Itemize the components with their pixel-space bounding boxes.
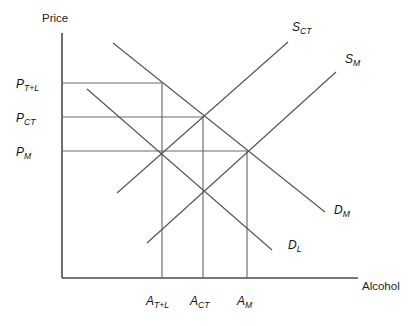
quantity-label-m-base: A <box>236 294 245 308</box>
y-axis-title: Price <box>42 12 68 24</box>
quantity-label-m-sub: M <box>245 300 253 310</box>
curve-label-s-m-base: S <box>345 52 353 66</box>
supply-curve-s-m <box>147 72 336 243</box>
quantity-label-ct-base: A <box>189 294 198 308</box>
demand-curve-d-l <box>87 89 272 250</box>
axes-group <box>62 33 358 278</box>
quantity-label-m: AM <box>236 294 253 310</box>
price-label-m: PM <box>16 145 32 161</box>
x-axis-title: Alcohol <box>362 280 400 292</box>
price-label-t-plus-l-sub: T+L <box>24 83 39 93</box>
price-label-ct-base: P <box>16 111 24 125</box>
curve-label-s-ct: SCT <box>292 20 312 36</box>
price-label-m-base: P <box>16 145 24 159</box>
curve-label-d-m-base: D <box>334 203 343 217</box>
curve-label-d-m-sub: M <box>343 209 351 219</box>
supply-demand-figure: Price Alcohol PT+L PCT PM AT+L ACT AM <box>0 0 415 326</box>
price-label-ct: PCT <box>16 111 36 127</box>
price-label-t-plus-l: PT+L <box>16 77 39 93</box>
curves-group <box>87 42 336 250</box>
quantity-guide-lines <box>162 83 247 278</box>
quantity-label-ct: ACT <box>189 294 210 310</box>
curve-label-d-l: DL <box>288 238 302 254</box>
quantity-label-t-plus-l-sub: T+L <box>154 300 169 310</box>
quantity-label-t-plus-l: AT+L <box>145 294 169 310</box>
curve-label-s-m: SM <box>345 52 361 68</box>
curve-label-d-l-sub: L <box>297 244 302 254</box>
quantity-axis-labels: AT+L ACT AM <box>145 294 253 310</box>
quantity-label-ct-sub: CT <box>198 300 210 310</box>
price-label-m-sub: M <box>24 151 32 161</box>
curve-label-d-l-base: D <box>288 238 297 252</box>
curve-label-d-m: DM <box>334 203 351 219</box>
price-label-ct-sub: CT <box>24 117 36 127</box>
curve-labels: SCT SM DM DL <box>288 20 361 254</box>
curve-label-s-ct-sub: CT <box>300 26 312 36</box>
curve-label-s-m-sub: M <box>353 58 361 68</box>
quantity-label-t-plus-l-base: A <box>145 294 154 308</box>
price-axis-labels: PT+L PCT PM <box>16 77 39 161</box>
diagram-canvas: Price Alcohol PT+L PCT PM AT+L ACT AM <box>0 0 415 326</box>
price-guide-lines <box>62 83 247 151</box>
curve-label-s-ct-base: S <box>292 20 300 34</box>
demand-curve-d-m <box>113 43 325 212</box>
price-label-t-plus-l-base: P <box>16 77 24 91</box>
